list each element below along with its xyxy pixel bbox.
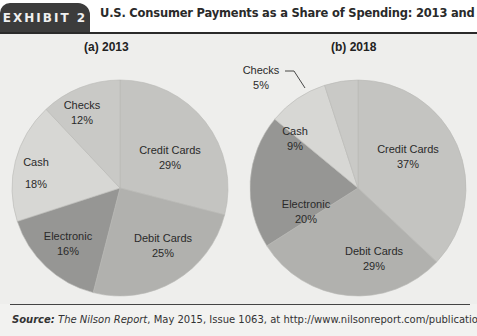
source-divider	[10, 304, 470, 305]
slice-percent: 29%	[363, 260, 385, 272]
slice-label: Electronic	[282, 198, 331, 210]
checks-leader-line	[285, 71, 305, 88]
slice-percent: 25%	[152, 247, 174, 259]
slice-percent: 16%	[57, 245, 79, 257]
slice-label: Credit Cards	[377, 143, 439, 155]
source-details: , May 2015, Issue 1063, at http://www.ni…	[147, 314, 477, 325]
slice-label: Electronic	[44, 230, 93, 242]
slice-label: Checks	[64, 99, 101, 111]
slice-label: Cash	[282, 125, 308, 137]
pie-charts: Credit Cards29%Debit Cards25%Electronic1…	[0, 0, 477, 336]
pie-2013: Credit Cards29%Debit Cards25%Electronic1…	[12, 80, 228, 296]
slice-percent: 20%	[295, 213, 317, 225]
slice-percent: 18%	[25, 178, 47, 190]
source-publication: The Nilson Report	[58, 314, 147, 325]
pie-2018: Credit Cards37%Debit Cards29%Electronic2…	[243, 64, 466, 296]
slice-percent: 12%	[71, 114, 93, 126]
slice-label: Debit Cards	[134, 232, 193, 244]
source-note: Source: The Nilson Report, May 2015, Iss…	[12, 314, 477, 325]
slice-label: Debit Cards	[345, 245, 404, 257]
slice-percent: 29%	[159, 159, 181, 171]
slice-percent: 5%	[253, 79, 269, 91]
slice-percent: 37%	[397, 158, 419, 170]
slice-label: Checks	[243, 64, 280, 76]
slice-percent: 9%	[287, 140, 303, 152]
slice-label: Cash	[23, 156, 49, 168]
slice-label: Credit Cards	[139, 144, 201, 156]
